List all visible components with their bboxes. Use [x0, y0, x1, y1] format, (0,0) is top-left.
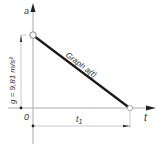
x-axis [8, 106, 156, 111]
graph-label: Graph a(t) [64, 50, 99, 79]
g-value-label: g = 9,81 m/s² [8, 57, 17, 104]
graph-line [34, 36, 129, 108]
x-axis-arrow-icon [146, 106, 156, 111]
start-point [30, 32, 36, 38]
end-point [127, 105, 132, 110]
g-dimension-line [20, 35, 26, 109]
origin-label: 0 [24, 112, 29, 122]
y-axis-label: a [24, 6, 29, 16]
x-axis-label: t [144, 112, 148, 123]
y-axis [31, 3, 36, 144]
t1-label: t1 [76, 114, 83, 125]
acceleration-time-diagram: a t 0 g = 9,81 m/s² t1 Graph a(t) [0, 0, 162, 144]
y-axis-arrow-icon [31, 3, 36, 12]
